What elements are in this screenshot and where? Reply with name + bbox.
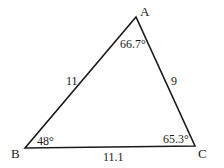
side-label-bc: 11.1 bbox=[103, 150, 124, 164]
triangle-diagram: A B C 66.7° 48° 65.3° 11 9 11.1 bbox=[0, 0, 224, 168]
side-label-ab: 11 bbox=[66, 74, 78, 88]
angle-label-b: 48° bbox=[37, 134, 54, 148]
vertex-label-c: C bbox=[198, 146, 207, 161]
angle-label-a: 66.7° bbox=[120, 37, 146, 51]
triangle-abc bbox=[25, 17, 195, 148]
vertex-label-a: A bbox=[140, 4, 150, 19]
side-label-ac: 9 bbox=[171, 74, 177, 88]
angle-label-c: 65.3° bbox=[163, 132, 189, 146]
vertex-label-b: B bbox=[11, 146, 20, 161]
